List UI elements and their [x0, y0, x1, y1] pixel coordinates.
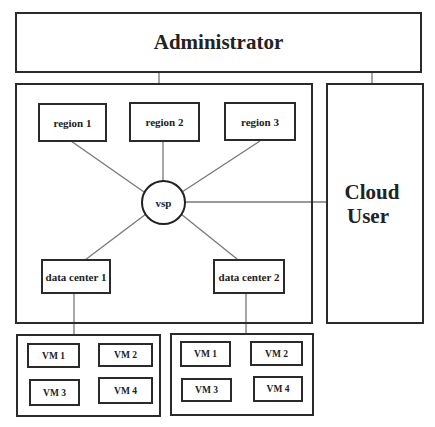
cloud-user-label: Cloud User: [326, 83, 424, 324]
vm-label: VM 3: [29, 379, 80, 406]
region-1-label: region 1: [38, 103, 107, 142]
data-center-1-label: data center 1: [41, 259, 111, 294]
vm-label: VM 2: [98, 343, 153, 367]
data-center-2-label: data center 2: [213, 259, 285, 294]
vm-label: VM 1: [27, 343, 80, 368]
vm-label: VM 4: [98, 377, 153, 404]
administrator-label: Administrator: [15, 12, 422, 73]
vsp-label: vsp: [156, 197, 172, 209]
vm-label: VM 3: [181, 378, 232, 402]
region-3-label: region 3: [224, 102, 296, 141]
region-2-label: region 2: [129, 102, 200, 142]
vsp-node: vsp: [141, 180, 186, 225]
vm-label: VM 1: [180, 341, 231, 367]
vm-label: VM 4: [253, 376, 303, 402]
cloud-user-line1: Cloud: [345, 180, 400, 204]
vm-label: VM 2: [250, 341, 303, 366]
cloud-user-line2: User: [347, 204, 389, 228]
